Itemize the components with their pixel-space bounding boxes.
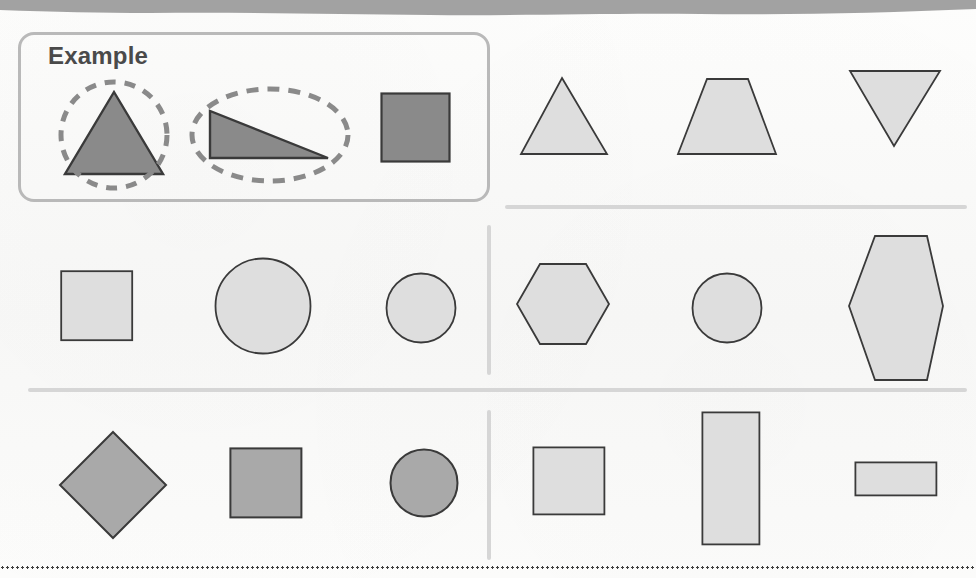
worksheet-page: Example <box>0 0 976 578</box>
shape-trapezoid-light <box>672 72 784 158</box>
example-label: Example <box>48 42 148 70</box>
shape-diamond-medium <box>56 428 170 542</box>
shape-circle-small-light <box>384 271 458 345</box>
shape-hexagon-tall-light <box>843 232 949 384</box>
shape-triangle-light <box>517 72 613 158</box>
shape-square-dark <box>380 92 452 164</box>
shape-circle-medium <box>388 447 460 519</box>
divider-horizontal-middle <box>28 388 967 392</box>
shape-right-triangle-ellipsed <box>188 78 354 192</box>
shape-rectangle-tall-light <box>701 411 763 548</box>
shape-square-light <box>60 270 136 344</box>
shape-circle-large-light <box>213 256 313 356</box>
dotted-rule <box>0 566 976 569</box>
shape-inverted-triangle-light <box>845 66 945 152</box>
shape-rectangle-wide-light <box>854 461 940 499</box>
shape-circle-medium-light <box>690 271 764 345</box>
divider-horizontal-top-right <box>505 205 967 209</box>
divider-vertical-row3 <box>487 410 491 560</box>
shape-hexagon-light <box>513 260 613 348</box>
divider-vertical-row2 <box>487 225 491 375</box>
shape-square-medium <box>229 447 305 521</box>
page-edge-band <box>0 0 976 18</box>
shape-square-light-2 <box>532 446 608 518</box>
shape-triangle-circled <box>55 78 175 192</box>
